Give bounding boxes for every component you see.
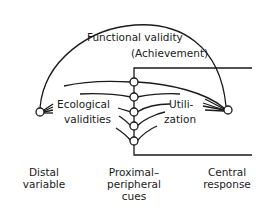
cue-node: [130, 93, 138, 101]
peripheral-label: peripheral: [107, 178, 161, 190]
cues-label: cues: [122, 190, 146, 202]
achievement-label: (Achievement): [131, 47, 208, 59]
cue-node: [130, 108, 138, 116]
variable-label: variable: [23, 178, 65, 190]
response-label: response: [203, 178, 251, 190]
functional-validity-label: Functional validity: [87, 31, 183, 43]
central-label: Central: [208, 166, 246, 178]
utili-label: Utili-: [169, 98, 194, 110]
central-response-node: [224, 106, 232, 114]
bottom-bracket-line: [134, 145, 252, 155]
distal-label: Distal: [29, 166, 59, 178]
zation-label: zation: [164, 113, 196, 125]
cue-node: [130, 137, 138, 145]
ecological-label: Ecological: [57, 98, 110, 110]
cue-node: [130, 78, 138, 86]
cue-node: [130, 122, 138, 130]
validities-label: validities: [64, 113, 111, 125]
utilization-lines: [137, 82, 224, 141]
lens-model-diagram: Functional validity (Achievement) Ecolog…: [0, 0, 269, 209]
ecological-validity-lines: [44, 81, 131, 141]
top-bracket-line: [134, 68, 252, 82]
distal-variable-node: [36, 108, 44, 116]
proximal-label: Proximal–: [109, 166, 159, 178]
